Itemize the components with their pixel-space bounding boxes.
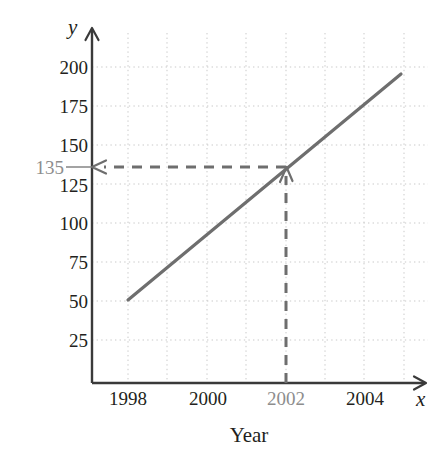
chart-figure: 200 175 150 135 125 100 75 50 25 1998 20… <box>0 0 442 454</box>
grid-horizontal <box>92 67 428 340</box>
trend-line <box>128 74 401 300</box>
y-tick-label-75: 75 <box>69 252 88 273</box>
x-tick-label-2002: 2002 <box>267 388 305 409</box>
readoff-horizontal-annotation <box>92 161 286 174</box>
x-tick-label-2000: 2000 <box>189 388 227 409</box>
y-tick-label-175: 175 <box>60 96 89 117</box>
y-tick-label-125: 125 <box>60 175 89 196</box>
y-tick-label-50: 50 <box>69 291 88 312</box>
y-tick-label-200: 200 <box>60 57 89 78</box>
y-axis-label: y <box>66 15 78 39</box>
x-tick-label-2004: 2004 <box>346 388 385 409</box>
readoff-left-arrowhead-icon <box>92 161 106 174</box>
y-tick-label-100: 100 <box>60 213 89 234</box>
axes <box>86 28 427 390</box>
x-tick-label-1998: 1998 <box>109 388 147 409</box>
y-tick-label-150: 150 <box>60 135 89 156</box>
chart-plot-area: 200 175 150 135 125 100 75 50 25 1998 20… <box>0 0 442 454</box>
y-tick-label-25: 25 <box>69 330 88 351</box>
x-axis-title: Year <box>230 423 269 447</box>
grid-vertical <box>128 33 404 383</box>
x-axis-label: x <box>415 387 426 411</box>
